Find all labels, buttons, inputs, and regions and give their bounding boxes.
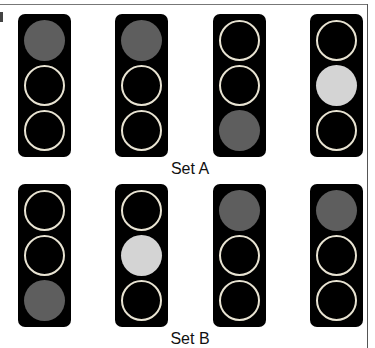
traffic-light-a-3 — [213, 14, 266, 157]
traffic-light-a-4 — [310, 14, 363, 157]
traffic-light-b-2 — [115, 184, 168, 327]
lamp-middle-off — [24, 235, 65, 276]
lamp-top-lit — [316, 190, 357, 231]
lamp-middle-off — [316, 235, 357, 276]
lamp-bottom-lit — [24, 280, 65, 321]
frame-right-border — [367, 4, 368, 348]
traffic-light-a-2 — [115, 14, 168, 157]
lamp-top-off — [219, 20, 260, 61]
lamp-middle-off — [24, 65, 65, 106]
lamp-top-off — [24, 190, 65, 231]
lamp-top-off — [316, 20, 357, 61]
lamp-top-lit — [24, 20, 65, 61]
lamp-middle-off — [219, 235, 260, 276]
set-a-label: Set A — [150, 160, 230, 178]
lamp-middle-lit — [316, 65, 357, 106]
lamp-middle-off — [121, 65, 162, 106]
lamp-bottom-lit — [219, 110, 260, 151]
lamp-bottom-off — [24, 110, 65, 151]
lamp-bottom-off — [121, 280, 162, 321]
lamp-bottom-off — [121, 110, 162, 151]
lamp-top-lit — [121, 20, 162, 61]
corner-mark — [0, 12, 3, 22]
lamp-bottom-off — [219, 280, 260, 321]
traffic-light-a-1 — [18, 14, 71, 157]
lamp-middle-off — [219, 65, 260, 106]
lamp-top-off — [121, 190, 162, 231]
lamp-bottom-off — [316, 280, 357, 321]
traffic-light-b-3 — [213, 184, 266, 327]
traffic-light-b-4 — [310, 184, 363, 327]
set-b-label: Set B — [150, 330, 230, 348]
lamp-middle-lit — [121, 235, 162, 276]
traffic-light-b-1 — [18, 184, 71, 327]
frame-top-border — [0, 4, 368, 5]
lamp-bottom-off — [316, 110, 357, 151]
lamp-top-lit — [219, 190, 260, 231]
